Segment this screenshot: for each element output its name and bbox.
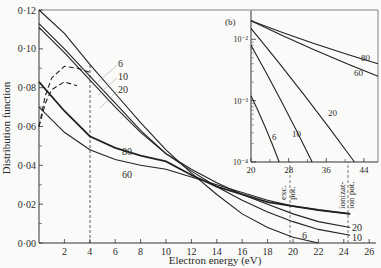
x-tick-label: 6: [113, 246, 118, 257]
inset-plot: (b) 2028364410⁻²10⁻³10⁻⁴ 80 60 20 10 6: [225, 10, 378, 175]
inset-tag: (b): [225, 17, 236, 27]
x-tick-label: 24: [339, 246, 349, 257]
inset-y-tick-label: 10⁻³: [233, 97, 248, 106]
inset-label-6: 6: [272, 132, 277, 142]
curve-6dashed: [39, 66, 90, 126]
label-6-right: 6: [302, 230, 307, 241]
inset-y-tick-label: 10⁻⁴: [233, 158, 248, 167]
ion-pot-label-2: ion pot.: [346, 181, 356, 209]
x-tick-label: 26: [364, 246, 374, 257]
y-tick-label: 0·02: [18, 199, 36, 210]
y-tick-label: 0·08: [18, 82, 36, 93]
label-10-right: 10: [352, 232, 362, 243]
x-tick-label: 18: [263, 246, 273, 257]
inset-label-20: 20: [328, 108, 338, 118]
distribution-chart: 0·000·020·040·060·080·100·12 24681012141…: [0, 0, 381, 268]
y-tick-label: 0·04: [18, 160, 36, 171]
inset-x-tick-label: 28: [284, 165, 294, 175]
y-tick-label: 0·06: [18, 121, 36, 132]
inset-label-80: 80: [361, 53, 371, 63]
inset-label-60: 60: [354, 68, 364, 78]
y-tick-label: 0·12: [18, 5, 36, 16]
inset-label-10: 10: [292, 129, 302, 139]
x-axis-label: Electron energy (eV): [169, 254, 262, 267]
x-tick-label: 20: [288, 246, 298, 257]
y-tick-label: 0·00: [18, 238, 36, 249]
y-tick-label: 0·10: [18, 43, 36, 54]
label-60: 60: [122, 169, 132, 180]
inset-y-tick-label: 10⁻²: [233, 35, 248, 44]
inset-x-tick-label: 44: [359, 165, 369, 175]
x-tick-label: 2: [62, 246, 67, 257]
exc-pot-label-2: pot.: [287, 186, 297, 200]
y-axis-label: Distribution function: [0, 81, 12, 174]
x-tick-label: 8: [138, 246, 143, 257]
label-6: 6: [118, 58, 123, 69]
x-tick-label: 4: [87, 246, 92, 257]
label-80: 80: [122, 146, 132, 157]
label-20: 20: [118, 84, 128, 95]
inset-x-tick-label: 36: [322, 165, 332, 175]
label-10: 10: [118, 71, 128, 82]
x-tick-label: 22: [313, 246, 323, 257]
